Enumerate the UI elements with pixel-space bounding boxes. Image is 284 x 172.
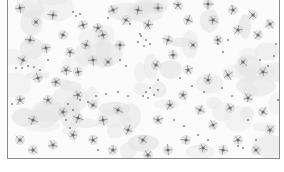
cell <box>73 67 83 77</box>
dot <box>217 43 218 44</box>
background-mottle <box>255 42 279 60</box>
micrograph-image <box>8 0 279 158</box>
cell <box>15 95 25 105</box>
background-mottle <box>107 124 124 139</box>
dot <box>72 109 73 110</box>
dot <box>237 145 238 146</box>
dot <box>33 66 34 67</box>
dot <box>21 67 22 68</box>
dot <box>87 101 88 102</box>
dot <box>125 65 126 66</box>
dot <box>79 13 80 14</box>
cell <box>233 135 243 145</box>
cell <box>225 103 235 113</box>
dot <box>139 33 140 34</box>
cell <box>103 57 113 67</box>
dot <box>117 91 118 92</box>
cell <box>15 135 25 145</box>
dot <box>107 17 108 18</box>
cell <box>133 5 143 15</box>
cell <box>265 125 275 135</box>
cell <box>68 130 78 140</box>
dot <box>173 119 174 120</box>
micrograph-frame <box>7 0 280 159</box>
cell <box>58 30 68 40</box>
cell <box>31 17 41 27</box>
cell <box>203 0 214 9</box>
dot <box>149 43 150 44</box>
dot <box>207 139 208 140</box>
dot <box>47 59 48 60</box>
dot <box>242 147 243 148</box>
dot <box>69 127 70 128</box>
cell <box>188 40 198 50</box>
cell <box>153 115 164 125</box>
dot <box>179 77 180 78</box>
cell <box>58 107 68 117</box>
dot <box>255 139 256 140</box>
dot <box>157 89 158 90</box>
cell <box>108 145 118 155</box>
dot <box>105 93 106 94</box>
dot <box>222 51 223 52</box>
cell <box>48 140 58 150</box>
dot <box>137 41 138 42</box>
cell <box>78 20 88 30</box>
dot <box>147 97 148 98</box>
cell <box>178 90 188 100</box>
dot <box>145 39 146 40</box>
cell <box>238 57 248 67</box>
cell <box>138 135 148 145</box>
cell <box>233 25 243 35</box>
dot <box>75 15 76 16</box>
cell <box>218 145 228 155</box>
dot <box>203 91 204 92</box>
cell <box>43 95 53 105</box>
dot <box>95 95 96 96</box>
dot <box>231 95 232 96</box>
dot <box>221 87 222 88</box>
cell <box>243 93 253 103</box>
dot <box>65 119 66 120</box>
dot <box>153 94 154 95</box>
cell <box>183 15 193 25</box>
cell <box>183 65 193 75</box>
dot <box>67 103 68 104</box>
cell <box>151 60 161 70</box>
background-mottle <box>159 60 182 79</box>
cell <box>248 10 258 20</box>
dot <box>247 119 248 120</box>
background-mottle <box>268 93 279 115</box>
cell <box>258 107 268 117</box>
dot <box>79 99 80 100</box>
dot <box>97 149 98 150</box>
dot <box>149 87 150 88</box>
dot <box>197 134 198 135</box>
dot <box>140 35 141 36</box>
cell <box>223 70 233 80</box>
cell <box>168 50 178 60</box>
dot <box>72 11 73 12</box>
background-mottle <box>52 86 89 113</box>
cell <box>228 5 238 15</box>
background-mottle <box>134 62 146 82</box>
cell <box>88 135 98 145</box>
dot <box>227 39 228 40</box>
cell <box>258 67 268 77</box>
dot <box>15 67 16 68</box>
cell <box>88 100 98 110</box>
cell <box>195 105 205 115</box>
cell <box>253 30 263 40</box>
dot <box>142 95 143 96</box>
dot <box>39 69 40 70</box>
cell <box>163 144 173 155</box>
cell <box>173 0 183 10</box>
dot <box>143 45 144 46</box>
cell <box>265 19 275 29</box>
dot <box>277 99 278 100</box>
cell <box>51 77 61 87</box>
cell <box>198 143 208 153</box>
dot <box>11 103 12 104</box>
cell <box>28 145 38 155</box>
dot <box>127 95 128 96</box>
